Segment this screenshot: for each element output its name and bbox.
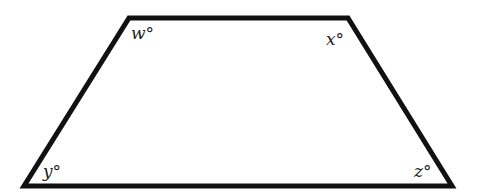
angle-label-w: w° [131,23,154,43]
angle-label-y: y° [42,161,61,181]
angle-label-x: x° [326,29,344,49]
trapezoid-diagram: w° x° y° z° [0,0,477,194]
angle-label-z: z° [413,161,431,181]
trapezoid-shape [24,18,452,186]
